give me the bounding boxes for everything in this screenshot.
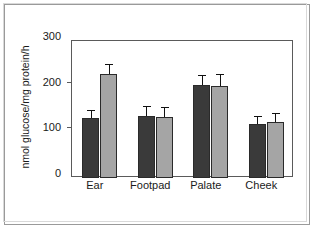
error-bar-cap [272,113,280,114]
error-bar-stem [146,106,147,116]
x-tick-label-footpad: Footpad [120,179,180,191]
error-bar-stem [91,110,92,118]
error-bar-cap [198,75,206,76]
error-bar-cap [87,110,95,111]
y-tick-label: 200 [31,77,61,87]
plot-area [72,41,292,176]
y-tick-label: 0 [31,168,61,178]
figure-container: nmol glucose/mg protein/h 0100200300 Ear… [0,0,315,230]
error-bar-cap [216,74,224,75]
error-bar-stem [164,107,165,117]
error-bar-stem [220,74,221,86]
bar-ear-gray [100,74,117,178]
error-bar-stem [109,64,110,74]
y-tick-label: 100 [31,122,61,132]
bar-cheek-dark [249,124,266,178]
error-bar-cap [254,116,262,117]
y-tick-label: 300 [31,31,61,41]
figure-outer-border: nmol glucose/mg protein/h 0100200300 Ear… [4,4,310,225]
x-tick-label-ear: Ear [65,179,125,191]
x-tick-label-cheek: Cheek [231,179,291,191]
error-bar-cap [143,106,151,107]
bar-footpad-gray [156,117,173,178]
error-bar-cap [161,107,169,108]
y-axis-title: nmol glucose/mg protein/h [19,19,31,195]
bar-palate-gray [211,86,228,178]
bar-ear-dark [82,118,99,178]
error-bar-cap [105,64,113,65]
error-bar-stem [275,113,276,122]
error-bar-stem [257,116,258,123]
plot-area-frame [71,40,293,177]
bar-cheek-gray [267,122,284,178]
bar-palate-dark [193,85,210,178]
error-bar-stem [202,75,203,85]
bar-footpad-dark [138,116,155,178]
x-tick-label-palate: Palate [176,179,236,191]
